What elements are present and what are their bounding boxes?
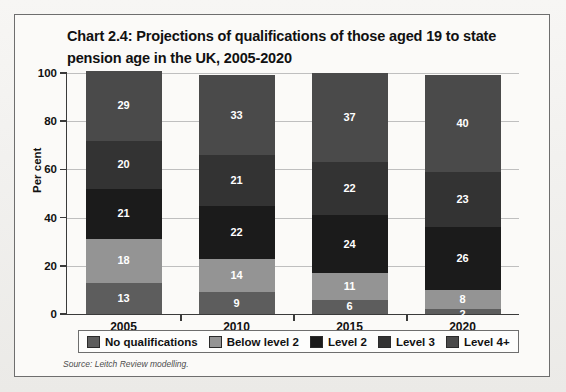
bar-segment: 40 bbox=[425, 75, 501, 171]
chart-frame: Chart 2.4: Projections of qualifications… bbox=[14, 14, 550, 377]
bar-segment-value: 22 bbox=[230, 227, 242, 238]
y-axis-tick bbox=[60, 169, 67, 171]
plot-wrapper: 0204060801001318212029200591422213320106… bbox=[15, 15, 551, 378]
bar-segment: 26 bbox=[425, 227, 501, 290]
bar-segment-value: 22 bbox=[343, 183, 355, 194]
bar-segment: 37 bbox=[312, 73, 388, 162]
bar-segment-value: 20 bbox=[117, 159, 129, 170]
bar-segment-value: 8 bbox=[459, 294, 465, 305]
bar-segment: 9 bbox=[199, 292, 275, 314]
bar-segment-value: 29 bbox=[117, 100, 129, 111]
legend-item[interactable]: No qualifications bbox=[87, 336, 198, 348]
bar-segment-value: 37 bbox=[343, 112, 355, 123]
legend-item[interactable]: Below level 2 bbox=[209, 336, 299, 348]
bar-segment: 21 bbox=[199, 155, 275, 206]
source-note: Source: Leitch Review modelling. bbox=[63, 359, 189, 369]
bar-2015: 611242237 bbox=[312, 73, 388, 314]
y-axis-tick bbox=[60, 217, 67, 219]
bar-segment-value: 18 bbox=[117, 255, 129, 266]
bar-2020: 28262340 bbox=[425, 75, 501, 314]
bar-segment: 18 bbox=[86, 239, 162, 282]
bar-segment: 21 bbox=[86, 189, 162, 240]
bar-segment: 6 bbox=[312, 300, 388, 314]
bar-segment-value: 13 bbox=[117, 293, 129, 304]
bar-segment-value: 21 bbox=[230, 175, 242, 186]
y-axis-tick-label: 60 bbox=[44, 163, 57, 175]
bar-segment-value: 21 bbox=[117, 208, 129, 219]
bar-segment-value: 14 bbox=[230, 270, 242, 281]
legend-swatch-icon bbox=[87, 336, 100, 348]
bar-segment-value: 6 bbox=[346, 301, 352, 312]
y-axis-tick bbox=[60, 72, 67, 74]
bar-segment-value: 23 bbox=[456, 194, 468, 205]
bar-segment: 14 bbox=[199, 259, 275, 293]
legend-item-label: Level 4+ bbox=[464, 336, 510, 348]
bar-segment: 2 bbox=[425, 309, 501, 314]
bar-segment-value: 2 bbox=[459, 309, 465, 320]
bar-segment-value: 40 bbox=[456, 118, 468, 129]
bar-2005: 1318212029 bbox=[86, 71, 162, 314]
legend-item[interactable]: Level 4+ bbox=[446, 336, 510, 348]
legend-item-label: Below level 2 bbox=[227, 336, 299, 348]
bar-segment: 23 bbox=[425, 172, 501, 227]
legend-swatch-icon bbox=[378, 336, 391, 348]
legend-item-label: Level 3 bbox=[396, 336, 435, 348]
y-axis-tick-label: 20 bbox=[44, 260, 57, 272]
chart-page: Chart 2.4: Projections of qualifications… bbox=[0, 0, 566, 392]
y-axis-tick bbox=[60, 120, 67, 122]
bar-segment-value: 11 bbox=[344, 281, 356, 292]
legend-item-label: Level 2 bbox=[328, 336, 367, 348]
y-axis-tick-label: 100 bbox=[38, 67, 57, 79]
y-axis-tick bbox=[60, 313, 67, 315]
bar-segment: 29 bbox=[86, 71, 162, 141]
bar-segment-value: 24 bbox=[343, 239, 355, 250]
legend-item[interactable]: Level 2 bbox=[310, 336, 367, 348]
y-axis-tick-label: 0 bbox=[51, 308, 57, 320]
plot-area: 0204060801001318212029200591422213320106… bbox=[66, 73, 519, 315]
y-axis-tick bbox=[60, 265, 67, 267]
bar-segment: 22 bbox=[312, 162, 388, 215]
legend-swatch-icon bbox=[310, 336, 323, 348]
bar-segment-value: 26 bbox=[456, 253, 468, 264]
chart-legend: No qualificationsBelow level 2Level 2Lev… bbox=[78, 330, 519, 353]
legend-item[interactable]: Level 3 bbox=[378, 336, 435, 348]
legend-swatch-icon bbox=[446, 336, 459, 348]
legend-item-label: No qualifications bbox=[105, 336, 198, 348]
bar-segment: 33 bbox=[199, 75, 275, 155]
bar-segment: 11 bbox=[312, 273, 388, 300]
bar-2010: 914222133 bbox=[199, 75, 275, 314]
bar-segment-value: 9 bbox=[233, 298, 239, 309]
bar-segment: 13 bbox=[86, 283, 162, 314]
legend-swatch-icon bbox=[209, 336, 222, 348]
bar-segment-value: 33 bbox=[230, 110, 242, 121]
y-axis-tick-label: 80 bbox=[44, 115, 57, 127]
bar-segment: 22 bbox=[199, 206, 275, 259]
bar-segment: 20 bbox=[86, 141, 162, 189]
bar-segment: 8 bbox=[425, 290, 501, 309]
y-axis-tick-label: 40 bbox=[44, 212, 57, 224]
bar-segment: 24 bbox=[312, 215, 388, 273]
